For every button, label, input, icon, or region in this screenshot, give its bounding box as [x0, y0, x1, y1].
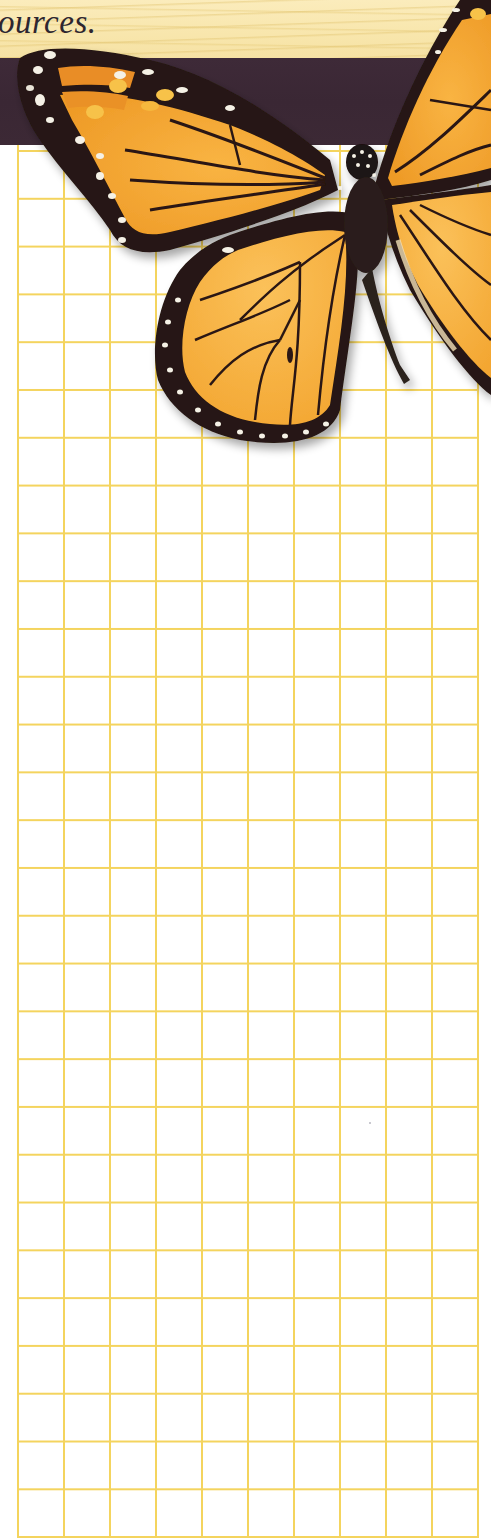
paper-speck: [369, 1122, 371, 1124]
purple-band: [0, 58, 491, 145]
graph-paper-grid: [17, 150, 479, 1538]
wood-header-strip: ources.: [0, 0, 491, 58]
headline-text: ources.: [0, 4, 97, 41]
